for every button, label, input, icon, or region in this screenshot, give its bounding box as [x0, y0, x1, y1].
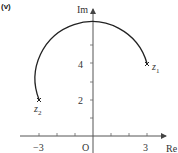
x-tick-label-3: 3 — [143, 142, 148, 153]
x-tick-label-neg3: −3 — [33, 142, 44, 153]
y-tick-label-2: 2 — [78, 95, 83, 106]
y-tick-label-4: 4 — [78, 59, 83, 70]
point-z2-label: z2 — [33, 103, 42, 117]
argand-diagram: Im Re O −3 3 2 4 z1 z2 — [0, 0, 178, 153]
x-axis-label: Re — [166, 143, 178, 153]
y-axis-label: Im — [77, 4, 88, 15]
arc-curve — [35, 22, 147, 100]
origin-label: O — [82, 142, 89, 153]
point-z1-label: z1 — [151, 61, 160, 75]
